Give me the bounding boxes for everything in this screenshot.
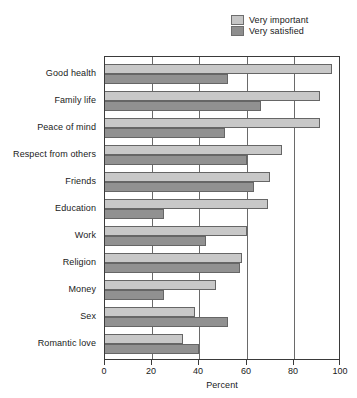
x-tick-label-20: 20: [146, 366, 156, 377]
y-axis-label: Respect from others: [0, 149, 96, 159]
y-axis-label: Romantic love: [0, 338, 96, 348]
bar-group: [105, 307, 339, 327]
bar-very-satisfied: [105, 236, 206, 246]
x-tick-0: [104, 360, 105, 365]
bar-group: [105, 226, 339, 246]
legend-swatch-very-satisfied: [231, 26, 244, 36]
x-tick-label-60: 60: [241, 366, 251, 377]
bar-very-important: [105, 172, 270, 182]
bar-group: [105, 253, 339, 273]
bar-very-satisfied: [105, 128, 225, 138]
bar-very-important: [105, 226, 247, 236]
x-axis-tick-labels: 020406080100: [104, 366, 340, 378]
bar-group: [105, 334, 339, 354]
bar-group: [105, 145, 339, 165]
y-axis-label: Good health: [0, 68, 96, 78]
bar-very-satisfied: [105, 344, 199, 354]
bar-very-important: [105, 118, 320, 128]
x-tick-80: [293, 360, 294, 365]
x-tick-label-0: 0: [101, 366, 106, 377]
plot-area: [104, 56, 340, 360]
legend-label-very-satisfied: Very satisfied: [249, 26, 304, 36]
legend-item-very-satisfied: Very satisfied: [231, 25, 357, 36]
y-axis-label: Peace of mind: [0, 122, 96, 132]
y-axis-label: Religion: [0, 257, 96, 267]
bar-very-important: [105, 64, 332, 74]
legend-item-very-important: Very important: [231, 14, 357, 25]
bar-group: [105, 64, 339, 84]
x-tick-20: [151, 360, 152, 365]
bar-group: [105, 280, 339, 300]
y-axis-label: Work: [0, 230, 96, 240]
bar-very-important: [105, 307, 195, 317]
bar-very-important: [105, 91, 320, 101]
chart-legend: Very important Very satisfied: [231, 14, 357, 36]
bar-very-satisfied: [105, 155, 247, 165]
bar-chart: Very important Very satisfied Good healt…: [0, 0, 357, 398]
bar-very-satisfied: [105, 290, 164, 300]
bar-very-important: [105, 199, 268, 209]
x-axis-ticks: [104, 360, 340, 365]
x-tick-label-40: 40: [193, 366, 203, 377]
bar-very-satisfied: [105, 74, 228, 84]
bar-very-satisfied: [105, 182, 254, 192]
bar-very-satisfied: [105, 317, 228, 327]
legend-swatch-very-important: [231, 15, 244, 25]
legend-label-very-important: Very important: [249, 15, 308, 25]
bar-group: [105, 118, 339, 138]
bar-very-important: [105, 334, 183, 344]
y-axis-label: Family life: [0, 95, 96, 105]
bar-very-satisfied: [105, 101, 261, 111]
y-axis-label: Money: [0, 284, 96, 294]
bar-group: [105, 199, 339, 219]
x-tick-label-80: 80: [288, 366, 298, 377]
bar-very-satisfied: [105, 263, 240, 273]
x-tick-40: [198, 360, 199, 365]
x-axis-title: Percent: [104, 380, 340, 391]
bar-group: [105, 172, 339, 192]
y-axis-label: Friends: [0, 176, 96, 186]
x-tick-100: [339, 360, 340, 365]
bar-very-satisfied: [105, 209, 164, 219]
bar-very-important: [105, 145, 282, 155]
y-axis-category-labels: Good healthFamily lifePeace of mindRespe…: [0, 56, 100, 360]
y-axis-label: Education: [0, 203, 96, 213]
bars-layer: [105, 57, 339, 359]
bar-group: [105, 91, 339, 111]
y-axis-label: Sex: [0, 311, 96, 321]
x-tick-60: [246, 360, 247, 365]
x-tick-label-100: 100: [332, 366, 347, 377]
bar-very-important: [105, 280, 216, 290]
bar-very-important: [105, 253, 242, 263]
